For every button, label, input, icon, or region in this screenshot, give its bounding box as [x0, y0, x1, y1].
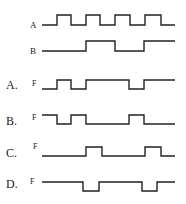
option-a-waveform: [42, 80, 175, 89]
option-a-row: A. F: [6, 78, 175, 92]
option-d-row: D. F: [6, 177, 175, 191]
option-d-waveform: [42, 182, 175, 191]
option-d-letter: D.: [6, 177, 18, 191]
input-a-row: A: [30, 15, 175, 30]
input-b-label: B: [30, 46, 36, 56]
option-a-signal-label: F: [32, 79, 37, 88]
option-b-waveform: [42, 115, 175, 124]
timing-diagram: A B A. F B. F C. F D. F: [0, 0, 186, 204]
option-c-waveform: [42, 147, 175, 156]
option-c-row: C. F: [6, 142, 175, 160]
input-b-waveform: [42, 41, 175, 51]
input-b-row: B: [30, 41, 175, 56]
option-c-letter: C.: [6, 146, 17, 160]
option-c-signal-label: F: [33, 142, 38, 151]
option-d-signal-label: F: [30, 177, 35, 186]
input-a-label: A: [30, 20, 37, 30]
option-b-row: B. F: [6, 113, 175, 128]
option-b-signal-label: F: [32, 113, 37, 122]
option-b-letter: B.: [6, 114, 17, 128]
option-a-letter: A.: [6, 78, 18, 92]
input-a-waveform: [42, 15, 175, 25]
